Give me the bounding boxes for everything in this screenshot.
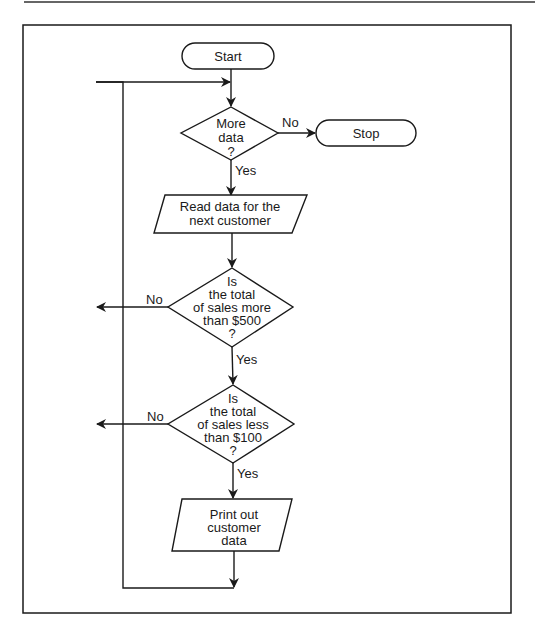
- decision-more-data: More data ?: [181, 107, 278, 160]
- label-yes-read: Yes: [235, 163, 257, 178]
- decision-more-than-500: Is the total of sales more than $500 ?: [168, 268, 293, 347]
- label-no-100: No: [147, 409, 164, 424]
- flowchart-canvas: Start More data ? No Stop Yes Read data …: [0, 0, 535, 631]
- svg-text:More: More: [216, 116, 246, 131]
- arrow-500-yes: [232, 347, 233, 384]
- stop-label: Stop: [353, 126, 380, 141]
- input-read-data: Read data for the next customer: [154, 195, 307, 233]
- decision-less-than-100: Is the total of sales less than $100 ?: [168, 385, 294, 463]
- label-yes-500: Yes: [236, 352, 258, 367]
- svg-text:?: ?: [228, 326, 235, 341]
- label-no-500: No: [146, 292, 163, 307]
- svg-text:?: ?: [227, 144, 234, 159]
- output-print-customer-data: Print out customer data: [172, 499, 292, 551]
- svg-text:next customer: next customer: [189, 213, 271, 228]
- svg-text:?: ?: [229, 443, 236, 458]
- start-label: Start: [214, 49, 242, 64]
- label-no-stop: No: [282, 115, 299, 130]
- stop-terminator: Stop: [316, 120, 416, 146]
- svg-text:data: data: [221, 533, 247, 548]
- label-yes-100: Yes: [237, 466, 259, 481]
- svg-text:Read data for the: Read data for the: [180, 199, 280, 214]
- svg-text:data: data: [218, 130, 244, 145]
- start-terminator: Start: [182, 43, 274, 69]
